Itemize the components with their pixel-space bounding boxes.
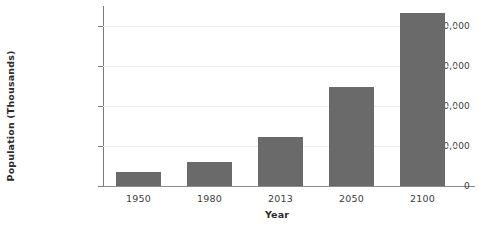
bar <box>400 13 445 186</box>
y-tick-mark <box>98 186 103 187</box>
bar <box>258 137 303 186</box>
bar <box>116 172 161 186</box>
bar-chart: Population (Thousands) 01,000,0002,000,0… <box>0 0 478 232</box>
x-axis-title: Year <box>103 209 451 220</box>
x-tick-label: 2013 <box>268 193 293 204</box>
y-axis-title: Population (Thousands) <box>0 0 20 232</box>
x-tick-label: 1980 <box>197 193 222 204</box>
x-tick-label: 2050 <box>339 193 364 204</box>
bar <box>187 162 232 186</box>
x-tick-label: 1950 <box>126 193 151 204</box>
x-tick-label: 2100 <box>410 193 435 204</box>
plot-area <box>103 6 458 186</box>
bar <box>329 87 374 186</box>
